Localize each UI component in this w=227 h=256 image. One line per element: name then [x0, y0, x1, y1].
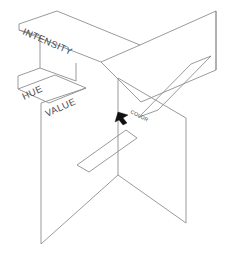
label-color: COLOR	[130, 109, 150, 123]
label-intensity: INTENSITY	[21, 26, 74, 57]
upper-right-slot	[139, 56, 211, 117]
three-plane-diagram: INTENSITY HUE VALUE COLOR	[0, 0, 227, 256]
front-plane-bottom-right	[118, 175, 186, 223]
lower-center-slot	[77, 130, 137, 172]
diagram-canvas: INTENSITY HUE VALUE COLOR	[0, 0, 227, 256]
color-point-marker[interactable]	[115, 112, 128, 125]
marker-arrow-icon	[115, 112, 128, 125]
lower-center-slot-outline	[77, 130, 137, 172]
label-value: VALUE	[43, 96, 77, 119]
hue-plane-riser	[18, 36, 40, 89]
front-plane-bottom-left	[41, 175, 118, 244]
upper-right-slot-outline	[139, 56, 211, 117]
